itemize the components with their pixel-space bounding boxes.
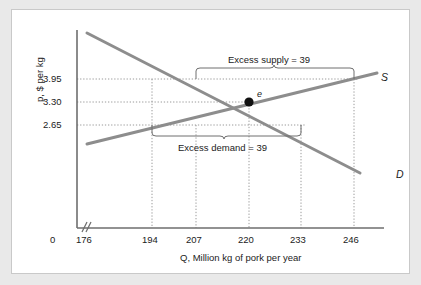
equilibrium-label: e: [257, 90, 262, 99]
supply-curve: [87, 73, 377, 144]
x-axis-title: Q, Million kg of pork per year: [180, 253, 301, 263]
y-tick-330: 3.30: [43, 97, 62, 107]
x-tick-0: 0: [50, 235, 55, 245]
excess-demand-label: Excess demand = 39: [178, 143, 267, 153]
horizontal-gridlines: [77, 79, 359, 125]
figure-panel: p, $ per kg 3.95 3.30 2.65 0 176 194 207…: [11, 9, 410, 274]
x-tick-220: 220: [238, 235, 254, 245]
y-tick-395: 3.95: [43, 74, 62, 84]
x-tick-207: 207: [186, 235, 202, 245]
equilibrium-point: [244, 97, 253, 106]
supply-curve-label: S: [381, 72, 388, 83]
excess-supply-bracket: [196, 65, 354, 79]
demand-curve-label: D: [396, 169, 404, 180]
axis-break-icon: [82, 222, 91, 232]
x-tick-176: 176: [76, 235, 92, 245]
y-tick-265: 2.65: [43, 120, 62, 130]
excess-supply-label: Excess supply = 39: [228, 55, 310, 65]
x-tick-246: 246: [343, 235, 359, 245]
x-tick-194: 194: [142, 235, 158, 245]
x-tick-233: 233: [290, 235, 306, 245]
